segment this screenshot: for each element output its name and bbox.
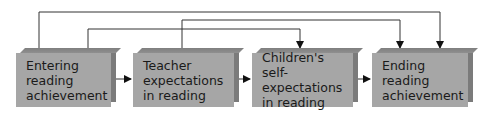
- edge-entering-to-ending: [39, 12, 440, 50]
- node-ending-reading-achievement: Ending reading achievement: [372, 53, 468, 107]
- node-label: Children's self-expectations in reading: [262, 50, 353, 110]
- box-side-shade: [468, 48, 473, 102]
- node-label: Ending reading achievement: [382, 58, 468, 103]
- node-label: Teacher expectations in reading: [143, 58, 223, 103]
- edge-entering-to-children: [88, 29, 300, 50]
- box-side-shade: [111, 48, 116, 102]
- node-entering-reading-achievement: Entering reading achievement: [16, 53, 111, 107]
- box-side-shade: [353, 48, 358, 102]
- node-label: Entering reading achievement: [26, 58, 111, 103]
- node-children-self-expectations: Children's self-expectations in reading: [252, 53, 353, 107]
- edge-teacher-to-ending: [182, 20, 400, 50]
- node-teacher-expectations: Teacher expectations in reading: [133, 53, 234, 107]
- box-side-shade: [234, 48, 239, 102]
